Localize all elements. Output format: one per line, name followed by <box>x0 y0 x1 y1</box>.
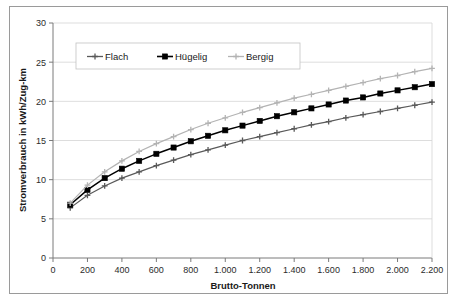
legend-label: Flach <box>105 51 128 62</box>
data-point-marker <box>153 163 159 169</box>
data-point-marker <box>136 149 142 155</box>
series-flach <box>67 99 435 211</box>
data-point-marker <box>326 102 331 107</box>
data-point-marker <box>429 99 435 105</box>
data-point-marker <box>326 87 332 93</box>
data-point-marker <box>274 130 280 136</box>
data-point-marker <box>240 123 245 128</box>
x-tick-label: 200 <box>80 265 95 275</box>
y-tick-label: 0 <box>41 253 46 263</box>
data-point-marker <box>412 102 418 108</box>
x-tick-label: 2.000 <box>386 265 409 275</box>
x-tick-label: 0 <box>50 265 55 275</box>
data-point-marker <box>412 69 418 75</box>
data-point-marker <box>257 118 262 123</box>
data-point-marker <box>171 134 177 140</box>
data-point-marker <box>188 139 193 144</box>
data-point-marker <box>309 106 314 111</box>
data-point-marker <box>326 119 332 125</box>
data-point-marker <box>119 158 125 164</box>
data-point-marker <box>274 114 279 119</box>
y-tick-label: 10 <box>36 175 46 185</box>
data-point-marker <box>343 84 349 90</box>
y-tick-label: 30 <box>36 18 46 28</box>
x-tick-label: 400 <box>114 265 129 275</box>
data-point-marker <box>222 142 228 148</box>
data-point-marker <box>205 120 211 126</box>
x-tick-label: 1.000 <box>214 265 237 275</box>
data-point-marker <box>343 115 349 121</box>
data-point-marker <box>137 158 142 163</box>
data-point-marker <box>171 145 176 150</box>
x-tick-label: 1.200 <box>248 265 271 275</box>
chart-figure: 051015202530 02004006008001.0001.2001.40… <box>0 0 458 305</box>
data-point-marker <box>171 157 177 163</box>
data-point-marker <box>188 152 194 158</box>
x-tick-label: 1.800 <box>352 265 375 275</box>
data-point-marker <box>291 95 297 101</box>
data-point-marker <box>395 105 401 111</box>
data-point-marker <box>309 122 315 128</box>
x-tick-label: 1.600 <box>317 265 340 275</box>
data-point-marker <box>119 175 125 181</box>
data-point-marker <box>378 91 383 96</box>
data-point-marker <box>429 82 434 87</box>
y-tick-label: 15 <box>36 136 46 146</box>
data-point-marker <box>205 147 211 153</box>
series-line <box>70 102 432 208</box>
series-hügelig <box>68 82 435 208</box>
data-point-marker <box>429 66 435 72</box>
y-tick-label: 25 <box>36 58 46 68</box>
x-tick-label: 2.200 <box>421 265 444 275</box>
y-axis-ticks: 051015202530 <box>36 18 53 263</box>
data-point-marker <box>343 98 348 103</box>
chart-legend: FlachHügeligBergig <box>76 43 300 69</box>
y-axis-title: Stromverbrauch in kWh/Zug-km <box>17 68 28 212</box>
data-point-marker <box>222 115 228 121</box>
y-tick-label: 5 <box>41 214 46 224</box>
data-point-marker <box>395 88 400 93</box>
y-tick-label: 20 <box>36 97 46 107</box>
data-point-marker <box>240 109 246 115</box>
series-line <box>70 68 432 203</box>
data-point-marker <box>395 73 401 79</box>
data-point-marker <box>292 110 297 115</box>
data-point-marker <box>257 105 263 111</box>
data-point-marker <box>223 128 228 133</box>
series-line <box>70 84 432 205</box>
data-point-marker <box>377 76 383 82</box>
x-tick-label: 1.400 <box>283 265 306 275</box>
x-tick-label: 600 <box>149 265 164 275</box>
data-point-marker <box>136 169 142 175</box>
data-point-marker <box>153 141 159 147</box>
data-point-marker <box>102 183 108 189</box>
data-point-marker <box>240 138 246 144</box>
data-point-marker <box>274 100 280 106</box>
series-bergig <box>67 66 435 207</box>
data-point-marker <box>291 126 297 132</box>
data-point-marker <box>205 133 210 138</box>
x-tick-label: 800 <box>183 265 198 275</box>
data-point-marker <box>162 54 167 59</box>
x-axis-ticks: 02004006008001.0001.2001.4001.6001.8002.… <box>50 258 443 275</box>
data-point-marker <box>257 134 263 140</box>
data-point-marker <box>188 127 194 133</box>
data-point-marker <box>309 91 315 97</box>
x-axis-title: Brutto-Tonnen <box>210 280 275 291</box>
legend-label: Hügelig <box>175 51 207 62</box>
data-point-marker <box>377 109 383 115</box>
data-series <box>67 66 435 211</box>
data-point-marker <box>360 80 366 86</box>
data-point-marker <box>119 166 124 171</box>
data-point-marker <box>412 85 417 90</box>
line-chart: 051015202530 02004006008001.0001.2001.40… <box>0 0 458 305</box>
data-point-marker <box>154 151 159 156</box>
data-point-marker <box>360 112 366 118</box>
legend-label: Bergig <box>246 51 273 62</box>
data-point-marker <box>102 176 107 181</box>
data-point-marker <box>360 95 365 100</box>
